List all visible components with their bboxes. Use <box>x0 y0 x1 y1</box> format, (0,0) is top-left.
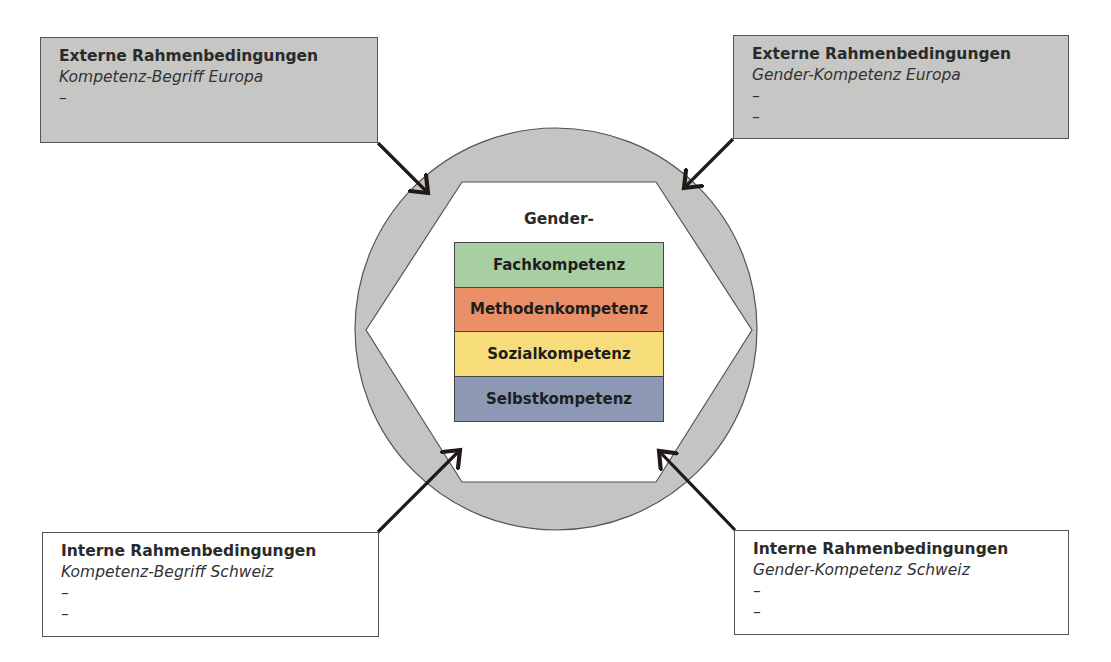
box-subtitle: Kompetenz-Begriff Europa <box>59 67 377 88</box>
layer-sozialkompetenz: Sozialkompetenz <box>455 332 663 377</box>
box-subtitle: Kompetenz-Begriff Schweiz <box>61 562 378 583</box>
box-item: – <box>752 107 1068 128</box>
competence-stack: Fachkompetenz Methodenkompetenz Sozialko… <box>454 242 664 422</box>
layer-selbstkompetenz: Selbstkompetenz <box>455 377 663 422</box>
box-title: Externe Rahmenbedingungen <box>752 44 1068 65</box>
external-box-europe-gender: Externe Rahmenbedingungen Gender-Kompete… <box>733 35 1069 139</box>
box-item: – <box>59 88 377 109</box>
internal-box-switzerland-gender: Interne Rahmenbedingungen Gender-Kompete… <box>734 530 1069 635</box>
box-title: Interne Rahmenbedingungen <box>753 539 1068 560</box>
box-item: – <box>61 583 378 604</box>
internal-box-switzerland-competence: Interne Rahmenbedingungen Kompetenz-Begr… <box>42 532 379 637</box>
layer-fachkompetenz: Fachkompetenz <box>455 243 663 288</box>
gender-heading: Gender- <box>454 210 664 228</box>
box-title: Externe Rahmenbedingungen <box>59 46 377 67</box>
box-item: – <box>61 604 378 625</box>
arrow-top-right <box>684 139 733 188</box>
box-subtitle: Gender-Kompetenz Europa <box>752 65 1068 86</box>
box-item: – <box>753 602 1068 623</box>
layer-methodenkompetenz: Methodenkompetenz <box>455 288 663 333</box>
box-title: Interne Rahmenbedingungen <box>61 541 378 562</box>
external-box-europe-competence: Externe Rahmenbedingungen Kompetenz-Begr… <box>40 37 378 143</box>
box-item: – <box>752 86 1068 107</box>
arrow-top-left <box>378 143 428 193</box>
box-item: – <box>753 581 1068 602</box>
box-subtitle: Gender-Kompetenz Schweiz <box>753 560 1068 581</box>
